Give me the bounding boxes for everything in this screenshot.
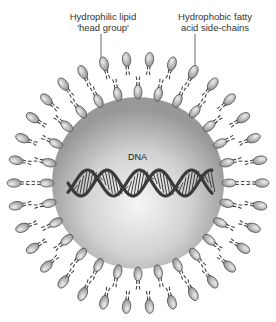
lipid-head-icon — [166, 294, 178, 310]
lipid-head-icon — [166, 56, 178, 72]
lipid-head-icon — [8, 200, 23, 211]
lipid-head-icon — [255, 179, 269, 187]
lipid-head-icon — [40, 179, 54, 187]
lipid-head-icon — [14, 132, 30, 145]
lipid-head-icon — [14, 221, 30, 234]
lipid-head-icon — [246, 132, 262, 145]
lipid-head-icon — [8, 155, 23, 166]
lipid-head-icon — [252, 155, 267, 166]
lipid-head-icon — [98, 294, 110, 310]
lipid-head-icon — [122, 52, 132, 67]
lipid-head-icon — [134, 85, 142, 99]
lipid-head-icon — [222, 179, 236, 187]
lipid-head-icon — [222, 259, 238, 275]
lipid-head-icon — [98, 56, 110, 72]
lipid-head-icon — [145, 299, 155, 314]
lipid-head-icon — [222, 92, 238, 108]
lipid-head-icon — [246, 221, 262, 234]
dna-label: DNA — [128, 152, 147, 162]
lipid-head-icon — [122, 299, 132, 314]
lipid-head-icon — [145, 52, 155, 67]
lipid-head-icon — [38, 92, 54, 108]
lipid-head-icon — [7, 179, 21, 187]
lipid-head-icon — [38, 259, 54, 275]
lipid-head-icon — [252, 200, 267, 211]
lipid-head-icon — [134, 267, 142, 281]
